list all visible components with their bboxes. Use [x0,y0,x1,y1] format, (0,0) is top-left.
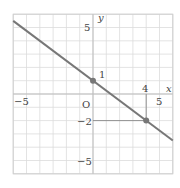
x-tick-neg5: −5 [14,96,29,107]
data-point [90,78,96,84]
y-tick-5: 5 [84,22,90,33]
origin-label: O [82,99,90,110]
x-tick-4: 4 [142,83,148,94]
y-tick-neg5: −5 [77,156,92,167]
y-axis-label: y [97,12,104,23]
x-tick-5: 5 [156,96,162,107]
y-tick-neg2: −2 [77,116,92,127]
x-axis-label: x [166,83,172,94]
y-tick-1: 1 [99,69,105,80]
data-point [143,118,149,124]
coordinate-plane: y x O −5 4 5 5 1 −2 −5 [0,0,180,188]
